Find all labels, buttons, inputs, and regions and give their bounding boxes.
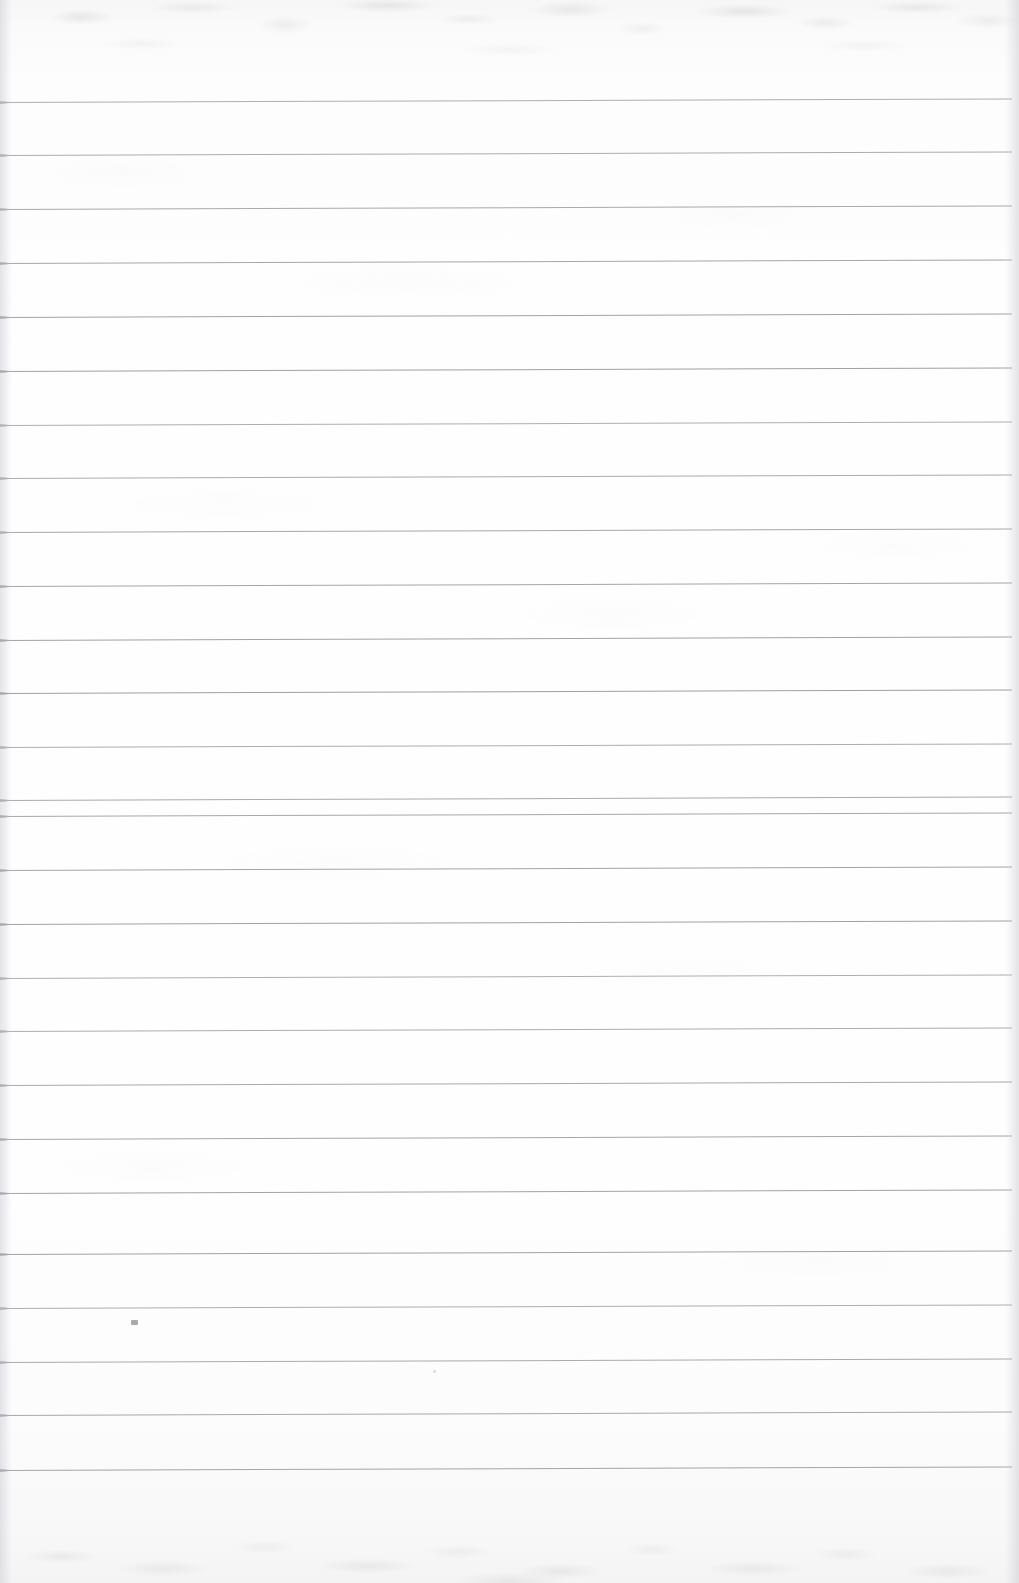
scan-edge-shadow-right — [1005, 0, 1019, 1583]
ruled-line — [0, 1304, 1012, 1309]
ruled-line — [0, 421, 1012, 426]
ruled-line — [0, 582, 1012, 587]
ruled-line — [0, 367, 1012, 372]
ruled-line — [0, 796, 1012, 801]
ruled-line — [0, 1250, 1012, 1255]
ruled-line — [0, 866, 1012, 871]
ruled-line — [0, 1411, 1012, 1416]
ruled-line — [0, 205, 1012, 210]
scan-edge-shadow-left — [0, 0, 12, 1583]
ruled-line — [0, 743, 1012, 748]
ruled-line — [0, 151, 1012, 156]
ruled-line — [0, 259, 1012, 264]
ruled-lines-group — [0, 0, 1019, 1583]
ruled-line — [0, 528, 1012, 533]
ruled-line — [0, 1081, 1012, 1086]
ruled-line — [0, 1466, 1012, 1471]
ruled-line — [0, 1189, 1012, 1194]
ruled-line — [0, 1358, 1012, 1363]
scanned-notebook-page — [0, 0, 1019, 1583]
ruled-line — [0, 636, 1012, 641]
ruled-line — [0, 1135, 1012, 1140]
ruled-line — [0, 474, 1012, 479]
ruled-line — [0, 974, 1012, 979]
ruled-line — [0, 812, 1012, 817]
ruled-line — [0, 1027, 1012, 1032]
ruled-line — [0, 98, 1012, 103]
ruled-line — [0, 313, 1012, 318]
ruled-line — [0, 920, 1012, 925]
pencil-dot-mark — [433, 1370, 436, 1373]
pencil-smudge-mark — [131, 1320, 138, 1325]
ruled-line — [0, 689, 1012, 694]
